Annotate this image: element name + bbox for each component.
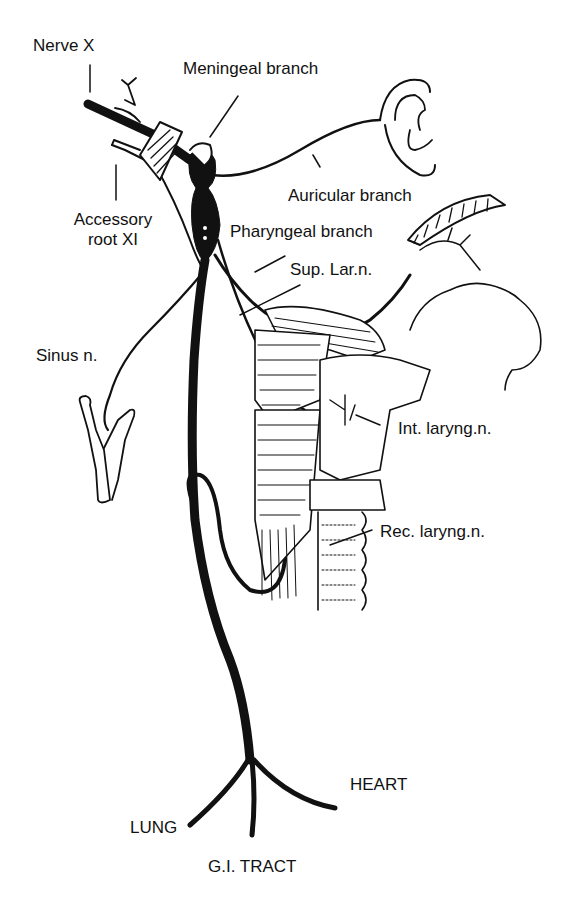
vagus-nerve-diagram [0,0,572,914]
label-accessory-line1: Accessory [58,210,168,230]
label-rec-laryng-n: Rec. laryng.n. [380,522,485,542]
label-heart: HEART [350,775,407,795]
lung-branch [190,760,248,825]
label-gi-tract: G.I. TRACT [208,857,296,877]
gi-branch [252,760,254,835]
label-pharyngeal-branch: Pharyngeal branch [230,222,373,242]
label-sinus-n: Sinus n. [36,346,97,366]
meningeal-leader [210,96,238,137]
label-accessory-line2: root XI [58,230,168,250]
vagus-trunk [192,260,250,760]
label-lung: LUNG [130,818,177,838]
label-meningeal-branch: Meningeal branch [183,59,318,79]
heart-branch [254,760,335,808]
label-int-laryng-n: Int. laryng.n. [398,419,492,439]
label-auricular-branch: Auricular branch [288,186,412,206]
label-nerve-x: Nerve X [33,36,94,56]
label-sup-lar-n: Sup. Lar.n. [290,260,372,280]
label-accessory-root: Accessory root XI [58,210,168,250]
